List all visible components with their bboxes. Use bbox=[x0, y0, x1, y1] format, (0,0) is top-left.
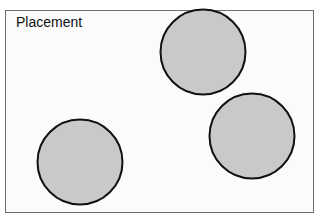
circles-canvas bbox=[0, 0, 320, 217]
circle-right[interactable] bbox=[210, 94, 295, 179]
circle-bottom-left[interactable] bbox=[38, 120, 123, 205]
circle-top[interactable] bbox=[161, 10, 246, 95]
